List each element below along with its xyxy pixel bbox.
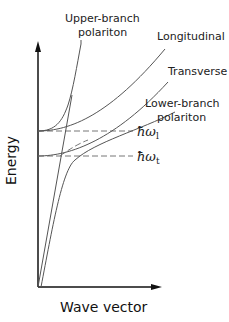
omega-l-label: ħωl: [137, 124, 159, 141]
longitudinal-curve: [38, 49, 165, 131]
omega-t-label: ħωt: [137, 149, 160, 166]
upper-branch-label-line1: Upper-branch: [65, 12, 140, 25]
lower-branch-label-line1: Lower-branch: [145, 97, 219, 110]
upper-branch-polariton-curve: [38, 44, 81, 131]
lower-branch-label-line2: polariton: [157, 111, 206, 124]
energy-axis-arrow-icon: [35, 41, 41, 52]
axes: [35, 41, 162, 290]
energy-axis-label: Energy: [3, 136, 19, 185]
longitudinal-label: Longitudinal: [157, 30, 225, 43]
upper-branch-label-line2: polariton: [78, 26, 127, 39]
polariton-diagram: Upper-branch polariton Longitudinal Tran…: [0, 0, 229, 322]
transverse-label: Transverse: [167, 65, 228, 78]
wave-vector-axis-arrow-icon: [151, 284, 162, 290]
transverse-curve: [38, 82, 168, 156]
wave-vector-axis-label: Wave vector: [60, 299, 148, 315]
photon-line: [38, 95, 72, 287]
